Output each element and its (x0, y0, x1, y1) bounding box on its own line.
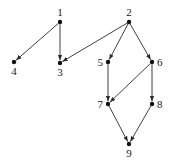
node-label: 9 (126, 147, 132, 159)
node-dot (106, 60, 110, 64)
edges-group (16, 23, 152, 142)
edge-8-to-9 (130, 106, 151, 142)
node-dot (150, 60, 154, 64)
node-label: 6 (157, 56, 163, 68)
node-dot (58, 61, 62, 65)
node-1: 1 (57, 6, 63, 24)
edge-2-to-5 (109, 24, 128, 60)
node-label: 8 (157, 98, 163, 110)
node-label: 3 (57, 66, 63, 78)
node-dot (127, 20, 131, 24)
node-label: 5 (98, 56, 104, 68)
node-label: 1 (57, 6, 63, 18)
node-dot (150, 102, 154, 106)
node-3: 3 (57, 61, 63, 78)
edge-7-to-9 (109, 106, 128, 142)
edge-1-to-4 (16, 23, 58, 60)
node-9: 9 (126, 142, 132, 159)
directed-graph-diagram: 123456789 (0, 0, 172, 163)
node-label: 2 (126, 6, 132, 18)
node-label: 4 (11, 65, 17, 77)
nodes-group: 123456789 (11, 6, 163, 159)
node-dot (106, 102, 110, 106)
node-label: 7 (98, 98, 104, 110)
edge-2-to-3 (62, 23, 127, 61)
edge-6-to-7 (110, 64, 150, 103)
node-dot (127, 142, 131, 146)
node-4: 4 (11, 60, 17, 77)
edge-2-to-6 (130, 24, 151, 60)
node-2: 2 (126, 6, 132, 24)
node-dot (12, 60, 16, 64)
node-dot (58, 20, 62, 24)
